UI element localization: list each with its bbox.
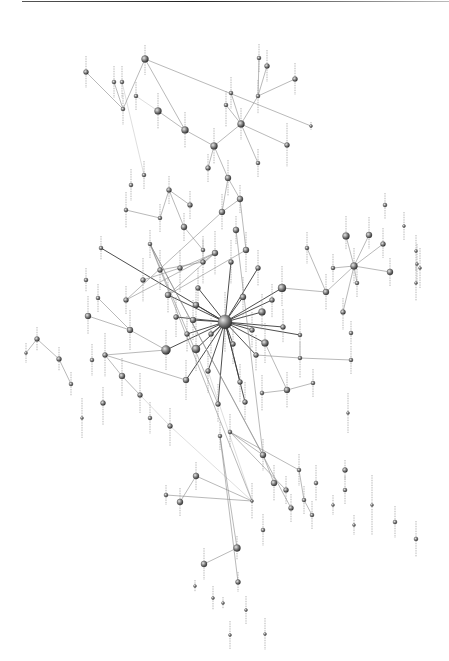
graph-node <box>193 473 199 479</box>
graph-node <box>192 345 200 353</box>
edge <box>222 178 228 212</box>
graph-node <box>256 94 260 98</box>
edge <box>228 178 240 199</box>
graph-node <box>218 434 222 438</box>
graph-node <box>103 353 108 358</box>
graph-node <box>174 315 179 320</box>
edge <box>204 548 237 564</box>
graph-node <box>25 352 28 355</box>
edge <box>225 322 300 335</box>
graph-node <box>260 391 264 395</box>
edge <box>354 244 383 266</box>
graph-node <box>162 346 171 355</box>
graph-node <box>229 91 233 95</box>
graph-node <box>349 331 353 335</box>
graph-node <box>85 313 91 319</box>
graph-node <box>222 602 225 605</box>
graph-node <box>121 107 125 111</box>
graph-node <box>264 633 267 636</box>
graph-node <box>261 528 265 532</box>
graph-node <box>289 506 294 511</box>
graph-node <box>206 166 211 171</box>
graph-node <box>381 242 386 247</box>
edge <box>222 199 240 212</box>
graph-node <box>343 488 347 492</box>
graph-node <box>84 278 88 282</box>
edge <box>220 436 238 582</box>
edge <box>145 59 185 130</box>
edge <box>354 235 369 266</box>
graph-node <box>245 609 248 612</box>
graph-node <box>155 108 162 115</box>
graph-node <box>353 524 356 527</box>
edge <box>180 476 196 502</box>
edge <box>241 96 258 124</box>
graph-node <box>225 175 231 181</box>
graph-node <box>196 286 201 291</box>
graph-node <box>236 580 241 585</box>
graph-node <box>314 481 318 485</box>
edge <box>241 124 258 163</box>
edge <box>150 244 252 501</box>
graph-node <box>298 356 302 360</box>
edge <box>26 339 37 353</box>
graph-node <box>234 545 241 552</box>
graph-node <box>323 289 329 295</box>
graph-node <box>229 260 234 265</box>
graph-node <box>164 493 168 497</box>
edge <box>240 199 246 250</box>
graph-node <box>254 353 259 358</box>
edge <box>184 227 203 250</box>
edge <box>258 79 295 96</box>
graph-node <box>181 224 187 230</box>
graph-node <box>209 332 214 337</box>
graph-node <box>212 250 218 256</box>
edge <box>98 298 130 330</box>
graph-node <box>120 80 124 84</box>
graph-node <box>415 250 418 253</box>
edge <box>282 288 326 292</box>
graph-node <box>332 504 335 507</box>
graph-node <box>281 325 286 330</box>
graph-node <box>284 488 289 493</box>
graph-node <box>310 125 313 128</box>
graph-node <box>201 248 205 252</box>
graph-node <box>158 216 162 220</box>
graph-node <box>212 597 215 600</box>
graph-node <box>129 183 133 187</box>
edge <box>230 432 299 470</box>
graph-node <box>243 247 249 253</box>
graph-node <box>414 537 418 541</box>
graph-node <box>403 225 406 228</box>
graph-node <box>124 208 128 212</box>
graph-node <box>194 585 197 588</box>
edge <box>265 343 287 390</box>
graph-node <box>35 337 40 342</box>
graph-node <box>415 282 418 285</box>
graph-node <box>250 328 255 333</box>
edge <box>180 253 215 268</box>
edge <box>37 339 59 359</box>
edge <box>214 146 228 178</box>
graph-node <box>141 278 146 283</box>
edge <box>105 355 122 376</box>
hub-node <box>218 315 232 329</box>
graph-node <box>90 358 94 362</box>
edge <box>140 395 170 426</box>
graph-node <box>262 340 269 347</box>
graph-node <box>371 504 374 507</box>
edge <box>326 266 354 292</box>
graph-node <box>224 103 228 107</box>
edge <box>122 376 140 395</box>
edge <box>354 266 390 272</box>
graph-node <box>112 80 116 84</box>
edge <box>105 350 166 355</box>
graph-node <box>355 281 359 285</box>
edge <box>123 59 145 109</box>
graph-node <box>158 268 163 273</box>
edge <box>241 124 287 145</box>
edge <box>130 330 166 350</box>
edge <box>160 190 169 218</box>
graph-node <box>177 499 183 505</box>
edge <box>122 82 144 175</box>
